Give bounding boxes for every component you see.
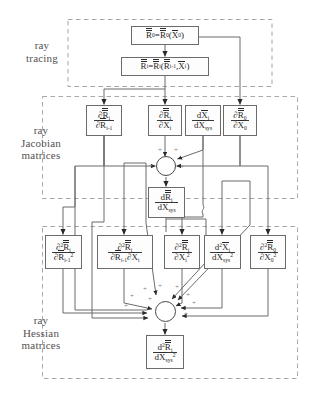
jacobian-plus-sign: +: [158, 147, 162, 154]
hessian-plus-sign: +: [143, 286, 147, 293]
node-hessian-d2ri-dri1-dxi[interactable]: ∂2Ri ∂Ri-1∂Xi: [97, 235, 153, 269]
group-label-ray-hessian: ray Hessian matrices: [10, 314, 72, 352]
jacobian-plus-sign: +: [180, 164, 184, 171]
hessian-plus-sign: +: [186, 292, 190, 299]
node-jacobian-output-dri-dxsys[interactable]: dRi dXsys: [148, 187, 185, 218]
hessian-plus-sign: +: [175, 284, 179, 291]
node-ri-equation[interactable]: Ri=Ri(Ri-1,Xi): [121, 57, 209, 76]
node-jacobian-dr0-dx0[interactable]: ∂R0 ∂X0: [223, 105, 257, 136]
hessian-plus-sign: +: [124, 303, 128, 310]
hessian-plus-sign: +: [192, 300, 196, 307]
node-hessian-d2xi-dxsyssq[interactable]: d2Xi dXsys2: [204, 235, 241, 269]
node-r0-equation[interactable]: R0=R0(X0): [131, 26, 199, 45]
node-jacobian-dxi-dxsys[interactable]: dXi dXsys: [185, 105, 221, 136]
hessian-plus-sign: +: [158, 283, 162, 290]
node-hessian-d2r0-dx0sq[interactable]: ∂2R0 ∂X02: [250, 235, 286, 269]
group-label-ray-jacobian: ray Jacobian matrices: [10, 124, 72, 162]
jacobian-plus-sign: +: [149, 163, 153, 170]
jacobian-summation-node: [156, 156, 176, 176]
node-jacobian-dri-dxi[interactable]: ∂Ri ∂Xi: [148, 105, 182, 136]
hessian-plus-sign: +: [130, 293, 134, 300]
hessian-summation-node: [155, 301, 176, 322]
diagram-canvas: ray tracing ray Jacobian matrices ray He…: [0, 0, 313, 397]
node-jacobian-dri-dri1[interactable]: ∂Ri ∂Ri-1: [86, 105, 122, 136]
group-label-ray-tracing: ray tracing: [18, 39, 66, 64]
jacobian-plus-sign: +: [174, 147, 178, 154]
hessian-plus-sign: +: [148, 296, 152, 303]
node-hessian-d2ri-dri1sq[interactable]: ∂2Ri ∂Ri-12: [45, 235, 82, 269]
node-hessian-output-d2ri-dxsyssq[interactable]: d2Ri dXsys2: [146, 335, 184, 369]
hessian-plus-sign: +: [184, 311, 188, 318]
node-hessian-d2ri-dxisq[interactable]: ∂2Ri ∂Xi2: [164, 235, 200, 269]
